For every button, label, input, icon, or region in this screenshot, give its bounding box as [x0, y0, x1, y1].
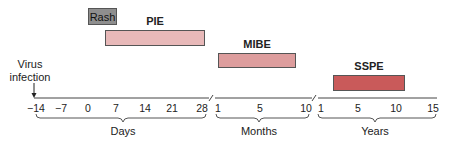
- tick-day: 14: [139, 102, 151, 114]
- days-label: Days: [110, 125, 135, 137]
- arrowhead-icon: [32, 93, 37, 98]
- tick-day: 7: [113, 102, 119, 114]
- brace-days: [36, 114, 206, 122]
- tick-day: −14: [27, 102, 45, 114]
- pie-bar: [105, 30, 205, 46]
- brace-years: [318, 114, 436, 122]
- months-label: Months: [241, 125, 277, 137]
- tick-day: 21: [166, 102, 178, 114]
- axis-break-icon: [312, 95, 316, 101]
- years-label: Years: [361, 125, 389, 137]
- tick-day: 0: [85, 102, 91, 114]
- rash-marker: Rash: [88, 8, 117, 25]
- virus-infection-label: Virus infection: [4, 58, 56, 84]
- sspe-bar: [333, 75, 405, 91]
- pie-label: PIE: [146, 15, 164, 27]
- tick-month: 5: [257, 102, 263, 114]
- tick-year: 5: [355, 102, 361, 114]
- axis-break-icon: [209, 95, 213, 101]
- tick-year: 10: [390, 102, 402, 114]
- mibe-label: MIBE: [243, 38, 271, 50]
- virus-infection-text: Virus infection: [4, 58, 56, 84]
- tick-day: −7: [55, 102, 67, 114]
- tick-day: 28: [196, 102, 208, 114]
- tick-month: 10: [300, 102, 312, 114]
- sspe-label: SSPE: [354, 60, 383, 72]
- mibe-bar: [218, 53, 296, 68]
- tick-month: 1: [215, 102, 221, 114]
- tick-year: 15: [427, 102, 439, 114]
- tick-year: 1: [318, 102, 324, 114]
- brace-months: [216, 114, 309, 122]
- timeline-graphics: [0, 0, 453, 144]
